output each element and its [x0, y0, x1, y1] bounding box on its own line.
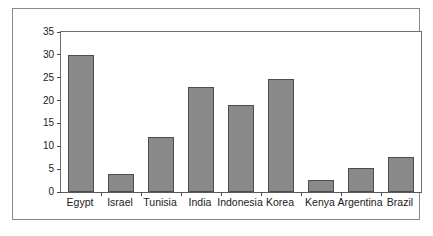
bar-slot	[301, 32, 341, 192]
bar-slot	[381, 32, 421, 192]
x-axis-category-label: Indonesia	[217, 197, 263, 208]
y-axis-tick-label: 10	[43, 141, 57, 151]
plot-area: 05101520253035	[60, 31, 422, 193]
bar-slot	[221, 32, 261, 192]
y-axis-tick: 0	[48, 187, 61, 197]
bar-slot	[341, 32, 381, 192]
x-axis-category-label: Brazil	[387, 197, 413, 208]
y-axis-tick: 15	[43, 118, 61, 128]
y-axis-tick-label: 25	[43, 73, 57, 83]
y-axis-tick: 5	[48, 164, 61, 174]
x-axis-tick-mark	[181, 192, 182, 196]
y-axis-tick: 35	[43, 27, 61, 37]
bar[interactable]	[108, 174, 134, 192]
bar-slot	[141, 32, 181, 192]
x-axis-tick-mark	[101, 192, 102, 196]
y-axis-tick: 20	[43, 96, 61, 106]
bar[interactable]	[228, 105, 254, 192]
y-axis-tick: 30	[43, 50, 61, 60]
x-axis-tick-mark	[301, 192, 302, 196]
y-axis-tick-label: 0	[48, 187, 57, 197]
y-axis-tick-label: 5	[48, 164, 57, 174]
y-axis-tick: 10	[43, 141, 61, 151]
bar-slot	[61, 32, 101, 192]
x-axis-category-label: India	[189, 197, 212, 208]
bar-series	[61, 32, 421, 192]
bar-slot	[181, 32, 221, 192]
y-axis-tick: 25	[43, 73, 61, 83]
x-axis-category-label: Kenya	[305, 197, 335, 208]
bar[interactable]	[68, 55, 94, 192]
bar[interactable]	[148, 137, 174, 192]
y-axis-tick-label: 20	[43, 96, 57, 106]
bar[interactable]	[348, 168, 374, 192]
x-axis-category-label: Korea	[266, 197, 294, 208]
bar-chart-figure: 05101520253035 EgyptIsraelTunisiaIndiaIn…	[0, 0, 433, 236]
x-axis-category-label: Israel	[107, 197, 133, 208]
x-axis-category-label: Egypt	[67, 197, 94, 208]
y-axis-tick-label: 30	[43, 50, 57, 60]
y-axis-tick-label: 15	[43, 118, 57, 128]
bar[interactable]	[188, 87, 214, 192]
y-axis-tick-label: 35	[43, 27, 57, 37]
bar[interactable]	[308, 180, 334, 192]
x-axis-category-labels: EgyptIsraelTunisiaIndiaIndonesiaKoreaKen…	[60, 197, 422, 217]
x-axis-tick-mark	[141, 192, 142, 196]
bar-slot	[261, 32, 301, 192]
bar[interactable]	[268, 79, 294, 192]
bar-slot	[101, 32, 141, 192]
bar[interactable]	[388, 157, 414, 192]
x-axis-category-label: Tunisia	[143, 197, 176, 208]
figure-outer-frame: 05101520253035 EgyptIsraelTunisiaIndiaIn…	[12, 8, 420, 220]
x-axis-category-label: Argentina	[338, 197, 383, 208]
